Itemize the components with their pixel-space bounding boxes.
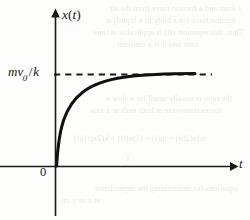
plot-area [0, 0, 250, 220]
origin-label: 0 [40, 165, 46, 180]
y-axis-label: x(t) [62, 7, 81, 23]
asymptote-numerator: mv [8, 64, 23, 79]
exponential-saturation-curve [57, 74, 195, 166]
asymptote-subscript: 0 [23, 73, 28, 83]
y-axis-label-paren-close: ) [76, 7, 81, 22]
asymptote-denominator: k [33, 64, 39, 79]
figure-container: a front and a friction force from the ai… [0, 0, 250, 220]
x-axis-label: t [239, 156, 243, 172]
asymptote-value-label: mv0/k [8, 64, 39, 82]
y-axis-arrowhead [51, 9, 60, 18]
x-axis-arrowhead [230, 162, 239, 171]
